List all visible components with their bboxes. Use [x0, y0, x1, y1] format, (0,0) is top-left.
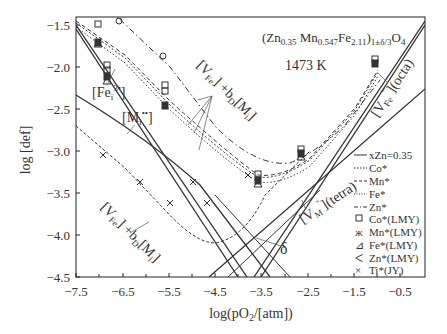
- curve-cross1: [228, 190, 320, 277]
- legend-asterisk-icon: ж: [354, 226, 363, 238]
- x-tick-labels: −7.5 −6.5 −5.5 −4.5 −3.5 −2.5 −1.5 −0.5: [64, 284, 412, 299]
- legend-label: Zn*: [369, 201, 387, 213]
- legend: xZn=0.35 Co* Mn* Fe* Zn* Co*(LMY) ж Mn*(…: [354, 149, 422, 277]
- annotation-vfe-bottom: [VFe] +bD[Mi]: [96, 200, 163, 267]
- curve-cross2: [215, 195, 290, 277]
- annotation-mi: [Mi••]: [122, 108, 153, 127]
- legend-triangle-icon: ⊿: [355, 239, 364, 251]
- legend-diamond-icon: ᐸ: [355, 252, 363, 264]
- chart-title: (Zn0.35 Mn0.547Fe2.11)1±δ/3O4: [262, 30, 406, 47]
- curve-fei: [76, 25, 247, 277]
- annotation-arrows-top: [188, 96, 212, 150]
- annotation-fei: [Fei3•]: [92, 83, 126, 102]
- x-tick-label: −2.5: [296, 284, 320, 299]
- x-tick-label: −7.5: [64, 284, 88, 299]
- x-tick-label: −0.5: [388, 284, 412, 299]
- annotation-vfe-top: [VFe] +bD[Mi]: [192, 58, 259, 125]
- legend-label: xZn=0.35: [369, 149, 413, 161]
- legend-label: Fe*: [369, 188, 386, 200]
- legend-label: Mn*(LMY): [369, 226, 422, 239]
- y-axis: [76, 25, 80, 277]
- y-tick-label: −3.0: [46, 144, 70, 159]
- y-tick-label: −4.5: [46, 270, 70, 285]
- x-tick-label: −4.5: [203, 284, 227, 299]
- defect-chart: −1.5 −2.0 −2.5 −3.0 −3.5 −4.0 −4.5 −7.5 …: [0, 0, 447, 334]
- legend-square-icon: [356, 215, 362, 221]
- y-tick-labels: −1.5 −2.0 −2.5 −3.0 −3.5 −4.0 −4.5: [46, 18, 70, 285]
- y-tick-label: −3.5: [46, 186, 70, 201]
- annotation-delta: δ: [280, 240, 288, 257]
- legend-label: Mn*: [369, 175, 390, 187]
- x-tick-label: −3.5: [249, 284, 273, 299]
- y-axis-title: log [def]: [18, 126, 33, 175]
- annotation-vm-tetra: [VM''](tetra): [295, 177, 360, 228]
- legend-label: Co*: [369, 162, 387, 174]
- x-tick-label: −5.5: [157, 284, 181, 299]
- legend-label: Co*(LMY): [369, 213, 419, 226]
- legend-label: Ti*(JY): [369, 264, 404, 277]
- legend-label: Fe*(LMY): [369, 239, 418, 252]
- x-tick-label: −1.5: [342, 284, 366, 299]
- y-tick-label: −2.5: [46, 102, 70, 117]
- y-tick-label: −4.0: [46, 228, 70, 243]
- temperature-label: 1473 K: [285, 58, 327, 73]
- y-tick-label: −1.5: [46, 18, 70, 33]
- y-tick-label: −2.0: [46, 60, 70, 75]
- x-tick-label: −6.5: [111, 284, 135, 299]
- legend-x-icon: ×: [355, 264, 361, 276]
- x-axis-title: log(pO2/[atm]): [209, 306, 293, 323]
